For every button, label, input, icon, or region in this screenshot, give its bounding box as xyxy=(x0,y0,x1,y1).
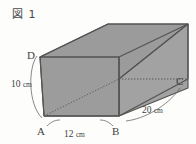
dimension-label-width: 12 cm xyxy=(64,129,85,140)
vertex-label-a: A xyxy=(37,126,45,137)
vertex-label-c: C xyxy=(176,76,183,87)
prism-front-face xyxy=(40,57,119,116)
rectangular-prism-drawing xyxy=(0,0,196,144)
dimension-label-depth: 20 cm xyxy=(142,105,163,116)
vertex-label-d: D xyxy=(27,50,35,61)
figure-container: 図 1 D A B C 10 cm 12 cm xyxy=(0,0,196,144)
dimension-label-height: 10 cm xyxy=(11,79,32,90)
width-dim-arc-left xyxy=(47,120,60,126)
vertex-label-b: B xyxy=(112,126,119,137)
